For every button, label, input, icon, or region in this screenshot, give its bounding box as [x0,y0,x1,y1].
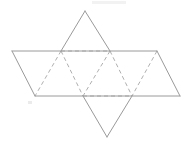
octahedron-net-diagram: Net of an octahedron Planar net made of … [0,0,192,152]
fold-upper-mid-down-right [110,51,132,96]
dashed-fold-lines-group [35,51,157,96]
fold-upper-left-down [35,51,61,96]
far-left-slant [12,51,35,96]
bottom-apex-right [107,96,132,137]
top-apex-right [85,11,110,51]
figure-canvas: Net of an octahedron Planar net made of … [0,0,192,152]
fold-upper-right-down [132,51,157,96]
solid-outline-lines-group [12,11,180,137]
fold-upper-left-to-mid [61,51,83,96]
far-right-slant [157,51,180,96]
bottom-apex-left [83,96,107,137]
top-apex-left [61,11,85,51]
fold-upper-mid-down-left [83,51,110,96]
